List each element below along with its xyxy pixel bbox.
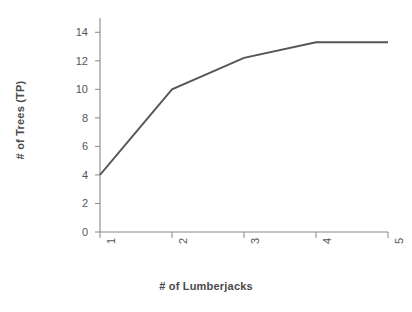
axis-spines xyxy=(100,18,388,232)
axis-ticks xyxy=(95,32,388,238)
data-series-line xyxy=(100,42,388,175)
chart-figure: # of Trees (TP) # of Lumberjacks 0246810… xyxy=(0,0,412,312)
plot-area xyxy=(0,0,412,312)
